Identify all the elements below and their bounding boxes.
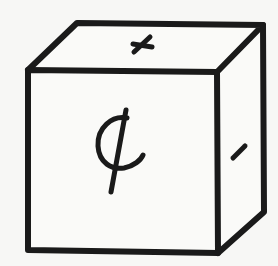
cube-front-face	[28, 70, 218, 253]
cube-diagram: ¢ + -	[0, 0, 278, 266]
cube-drawing	[0, 0, 278, 266]
